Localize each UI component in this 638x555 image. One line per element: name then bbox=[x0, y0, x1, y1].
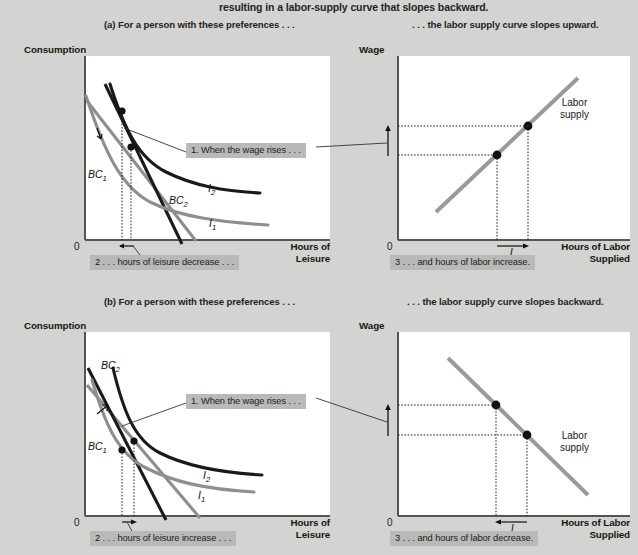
panel-b-right-x-axis-line2: Supplied bbox=[589, 529, 630, 540]
panel-a-left-change-arrow-leader bbox=[133, 246, 140, 255]
panel-a-right-wage-arrow-head bbox=[385, 125, 391, 131]
panel-a-right-supply-line1: Labor bbox=[562, 97, 588, 108]
panel-a-left-i1-sub: 1 bbox=[212, 223, 216, 232]
panel-b-left-change-arrow-leader bbox=[127, 522, 132, 531]
panel-a-left-bc1-text: BC bbox=[88, 168, 103, 180]
panel-a-right-y-axis-label: Wage bbox=[359, 44, 384, 56]
panel-b-left-bc2-sub: 2 bbox=[116, 365, 120, 374]
panel-a-callout-labor-change: 3 . . . and hours of labor increase. bbox=[390, 255, 535, 270]
panel-a-left-caption: (a) For a person with these preferences … bbox=[104, 19, 295, 30]
panel-a-left-x-axis-label: Hours of Leisure bbox=[266, 241, 330, 264]
panel-b-callout-wage-rises: 1. When the wage rises . . . bbox=[186, 394, 306, 409]
panel-b-left-bc1-label: BC1 bbox=[88, 440, 107, 455]
panel-b-left-bc2-label: BC2 bbox=[101, 359, 120, 374]
figure-title: resulting in a labor-supply curve that s… bbox=[219, 1, 488, 13]
panel-b-left-i1-sub: 1 bbox=[201, 495, 205, 504]
panel-a-callout-wage-rises: 1. When the wage rises . . . bbox=[186, 143, 306, 158]
panel-a-left-i2-sub: 2 bbox=[211, 188, 215, 197]
panel-b-callout-labor-change: 3 . . . and hours of labor decrease. bbox=[390, 531, 538, 546]
panel-b-right-x-axis-label: Hours of Labor Supplied bbox=[540, 517, 630, 540]
panel-b-left-plot-area bbox=[85, 332, 330, 516]
panel-b-callout-leisure-change: 2 . . . hours of leisure increase . . . bbox=[90, 531, 236, 546]
panel-a-callout-leisure-change: 2 . . . hours of leisure decrease . . . bbox=[90, 255, 239, 270]
panel-b-right-caption: . . . the labor supply curve slopes back… bbox=[407, 296, 604, 307]
panel-a-right-origin-label: 0 bbox=[387, 241, 393, 252]
panel-a-left-bc1-label: BC1 bbox=[88, 168, 107, 183]
panel-a-right-x-axis-line1: Hours of Labor bbox=[561, 241, 630, 252]
panel-a-right-plot-area bbox=[398, 56, 630, 240]
panel-b-right-y-axis-label: Wage bbox=[359, 320, 384, 332]
panel-b-left-bc1-text: BC bbox=[88, 440, 103, 452]
panel-a-right-caption: . . . the labor supply curve slopes upwa… bbox=[412, 19, 599, 30]
panel-b-left-i2-label: I2 bbox=[203, 469, 210, 484]
panel-a-left-bc2-text: BC bbox=[169, 194, 184, 206]
panel-b-left-bc2-text: BC bbox=[101, 359, 116, 371]
panel-a-left-bc1-sub: 1 bbox=[103, 174, 107, 183]
panel-b-right-origin-label: 0 bbox=[387, 517, 393, 528]
panel-a-left-i1-label: I1 bbox=[209, 217, 216, 232]
panel-a-left-bc2-sub: 2 bbox=[184, 200, 188, 209]
panel-b-left-bc1-sub: 1 bbox=[103, 446, 107, 455]
panel-a-left-i2-label: I2 bbox=[208, 182, 215, 197]
panel-b-left-x-axis-line2: Leisure bbox=[296, 529, 330, 540]
panel-a-left-origin-label: 0 bbox=[74, 241, 80, 252]
panel-b-right-supply-label: Labor supply bbox=[560, 430, 589, 453]
panel-b-left-x-axis-label: Hours of Leisure bbox=[266, 517, 330, 540]
panel-b-left-i1-label: I1 bbox=[198, 489, 205, 504]
panel-b-left-origin-label: 0 bbox=[74, 517, 80, 528]
panel-a-left-y-axis-label: Consumption bbox=[24, 44, 86, 56]
panel-b-right-labor-arrow-head bbox=[495, 519, 501, 524]
panel-b-right-x-axis-line1: Hours of Labor bbox=[561, 517, 630, 528]
panel-a-left-x-axis-line1: Hours of bbox=[291, 241, 330, 252]
panel-a-left-x-axis-line2: Leisure bbox=[296, 253, 330, 264]
panel-b-right-supply-line1: Labor bbox=[562, 430, 588, 441]
panel-b-left-i2-sub: 2 bbox=[206, 475, 210, 484]
panel-b-left-y-axis-label: Consumption bbox=[24, 320, 86, 332]
panel-b-left-x-axis-line1: Hours of bbox=[291, 517, 330, 528]
figure-root: resulting in a labor-supply curve that s… bbox=[0, 0, 638, 555]
panel-a-right-supply-line2: supply bbox=[560, 109, 589, 120]
panel-a-right-labor-arrow-head bbox=[523, 243, 529, 248]
panel-b-right-supply-line2: supply bbox=[560, 442, 589, 453]
panel-b-right-wage-arrow-head bbox=[385, 404, 391, 410]
panel-a-right-x-axis-line2: Supplied bbox=[589, 253, 630, 264]
panel-a-right-x-axis-label: Hours of Labor Supplied bbox=[540, 241, 630, 264]
panel-a-left-bc2-label: BC2 bbox=[169, 194, 188, 209]
panel-b-left-change-arrow-head bbox=[131, 520, 137, 525]
panel-b-right-plot-area bbox=[398, 332, 630, 516]
panel-b-left-caption: (b) For a person with these preferences … bbox=[104, 296, 295, 307]
panel-a-left-change-arrow-head bbox=[119, 244, 124, 249]
panel-a-right-supply-label: Labor supply bbox=[560, 97, 589, 120]
